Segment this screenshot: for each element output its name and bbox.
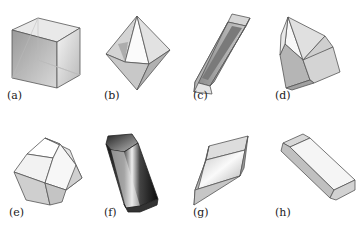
crystal-forms-figure: (a) (b) (c) (d) (e) (f) (g) (h) bbox=[0, 0, 359, 226]
pyramidal-crystal bbox=[280, 17, 340, 90]
panel-label-g: (g) bbox=[193, 207, 209, 218]
panel-label-f: (f) bbox=[104, 207, 117, 218]
rhombohedron-crystal bbox=[194, 136, 248, 205]
elongated-prism-crystal bbox=[194, 14, 250, 94]
panel-label-b: (b) bbox=[104, 90, 120, 101]
octahedron-crystal bbox=[106, 16, 170, 90]
panel-label-c: (c) bbox=[193, 90, 208, 101]
tabular-prism-crystal bbox=[281, 134, 355, 200]
panel-label-e: (e) bbox=[9, 207, 24, 218]
cube-crystal bbox=[12, 18, 80, 88]
panel-label-d: (d) bbox=[275, 90, 291, 101]
dark-prism-crystal bbox=[106, 134, 158, 212]
panel-label-h: (h) bbox=[275, 207, 291, 218]
crystal-drawings bbox=[0, 0, 359, 226]
dodecahedron-crystal bbox=[14, 138, 82, 205]
panel-label-a: (a) bbox=[7, 90, 22, 101]
